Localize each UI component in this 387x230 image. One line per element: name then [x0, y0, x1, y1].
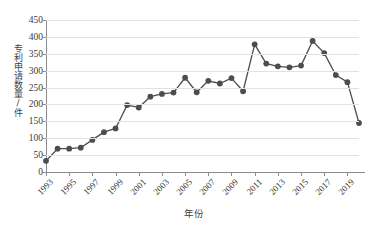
- x-axis-tick-mark: [208, 172, 209, 176]
- x-axis-title: 年份: [0, 208, 387, 219]
- x-axis-tick-label: 2003: [146, 177, 171, 202]
- x-axis-tick-label: 2009: [215, 177, 240, 202]
- x-axis-tick-label: 2005: [169, 177, 194, 202]
- x-axis-tick-label: 2015: [285, 177, 310, 202]
- x-axis-tick-mark: [347, 172, 348, 176]
- x-axis-tick-mark: [324, 172, 325, 176]
- x-axis-tick-label: 2017: [308, 177, 333, 202]
- x-axis-tick-label: 2019: [331, 177, 356, 202]
- x-axis-tick-label: 1999: [99, 177, 124, 202]
- x-axis-tick-mark: [231, 172, 232, 176]
- x-axis-tick-label: 2013: [261, 177, 286, 202]
- x-axis-tick-mark: [255, 172, 256, 176]
- x-axis-tick-mark: [46, 172, 47, 176]
- x-axis-tick-label: 2007: [192, 177, 217, 202]
- x-axis-tick-mark: [162, 172, 163, 176]
- x-axis-tick-label: 2011: [238, 177, 263, 202]
- x-axis-tick-mark: [278, 172, 279, 176]
- patent-application-line-chart: 专利申请数量/件 050100150200250300350400450 199…: [0, 0, 387, 230]
- x-axis-tick-label: 2001: [122, 177, 147, 202]
- x-axis-tick-mark: [185, 172, 186, 176]
- x-axis-tick-label: 1997: [76, 177, 101, 202]
- x-axis-tick-labels: 1993199519971999200120032005200720092011…: [0, 0, 387, 230]
- x-axis-tick-mark: [301, 172, 302, 176]
- x-axis-tick-mark: [92, 172, 93, 176]
- x-axis-tick-label: 1993: [30, 177, 55, 202]
- x-axis-tick-mark: [116, 172, 117, 176]
- x-axis-tick-mark: [69, 172, 70, 176]
- x-axis-tick-mark: [139, 172, 140, 176]
- x-axis-tick-label: 1995: [53, 177, 78, 202]
